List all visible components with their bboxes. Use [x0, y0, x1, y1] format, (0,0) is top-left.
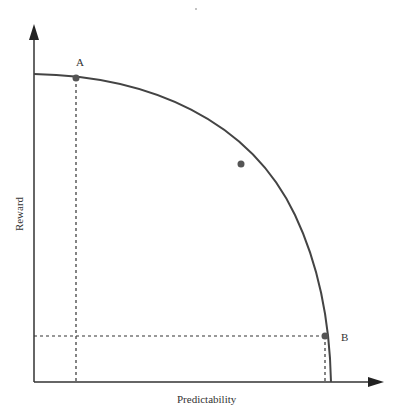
stray-mark: [195, 8, 197, 10]
y-axis-arrow-icon: [29, 24, 39, 40]
x-axis-arrow-icon: [368, 377, 384, 387]
x-axis-label: Predictability: [177, 393, 236, 405]
point-b: [322, 333, 329, 340]
y-axis-label: Reward: [13, 189, 25, 239]
point-mid: [238, 161, 245, 168]
frontier-diagram: [0, 0, 396, 415]
point-a: [73, 75, 80, 82]
point-a-label: A: [76, 56, 84, 68]
point-b-label: B: [341, 331, 348, 343]
